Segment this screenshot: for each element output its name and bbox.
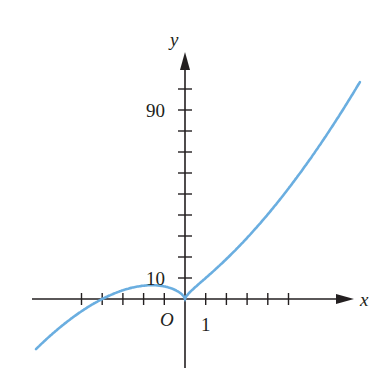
function-curve [36, 82, 360, 349]
y-arrow-icon [180, 52, 190, 70]
y-axis-label: y [168, 29, 179, 50]
chart: x y O 1 10 90 [0, 0, 390, 383]
y-tick-label-90: 90 [146, 100, 165, 121]
x-arrow-icon [336, 294, 354, 304]
x-axis-label: x [359, 289, 369, 310]
x-tick-label-1: 1 [201, 314, 211, 335]
origin-label: O [160, 309, 174, 330]
y-tick-label-10: 10 [146, 268, 165, 289]
x-axis [32, 293, 354, 305]
y-axis [178, 52, 192, 368]
